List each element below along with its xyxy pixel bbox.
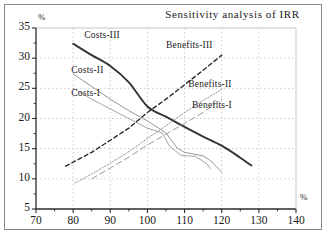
series-label-benefits-ii: Benefits-II: [188, 79, 231, 89]
x-tick-label: 140: [283, 214, 309, 226]
series-label-benefits-i: Benefits-I: [192, 100, 232, 110]
y-tick-label: 25: [8, 80, 30, 92]
series-label-costs-ii: Costs-II: [71, 65, 103, 75]
axis-ticks: [32, 28, 296, 213]
grid-lines: [36, 28, 296, 209]
x-tick-label: 80: [60, 214, 86, 226]
series-label-costs-i: Costs-I: [71, 88, 100, 98]
x-tick-label: 90: [97, 214, 123, 226]
y-tick-label: 10: [8, 171, 30, 183]
x-tick-label: 70: [23, 214, 49, 226]
series-label-benefits-iii: Benefits-III: [166, 40, 213, 50]
x-tick-label: 110: [172, 214, 198, 226]
x-tick-label: 100: [134, 214, 160, 226]
y-tick-label: 30: [8, 50, 30, 62]
chart-figure: Sensitivity analysis of IRR % % 35302520…: [0, 0, 326, 242]
series-label-costs-iii: Costs-III: [84, 30, 120, 40]
y-tick-label: 20: [8, 111, 30, 123]
y-tick-label: 15: [8, 141, 30, 153]
x-tick-label: 120: [209, 214, 235, 226]
y-tick-label: 5: [8, 201, 30, 213]
plot-area: [0, 0, 326, 242]
y-tick-label: 35: [8, 20, 30, 32]
x-tick-label: 130: [246, 214, 272, 226]
